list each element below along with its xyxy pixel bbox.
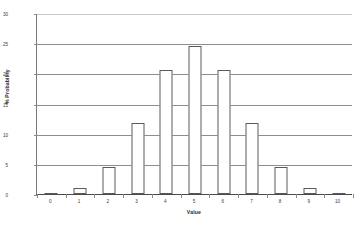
y-tick bbox=[34, 165, 37, 166]
bar-slot bbox=[37, 14, 66, 194]
y-axis-title: % Probability bbox=[4, 69, 10, 104]
y-tick-label: 0 bbox=[0, 193, 8, 198]
x-tick bbox=[66, 194, 67, 198]
x-tick-label: 8 bbox=[265, 199, 295, 204]
bar bbox=[246, 123, 259, 194]
bar-slot bbox=[324, 14, 353, 194]
x-tick-label: 6 bbox=[208, 199, 238, 204]
x-tick bbox=[324, 194, 325, 198]
x-tick-label: 10 bbox=[323, 199, 353, 204]
bar bbox=[131, 123, 144, 194]
x-tick-label: 9 bbox=[294, 199, 324, 204]
plot-area bbox=[36, 14, 352, 195]
x-tick bbox=[123, 194, 124, 198]
x-tick-label: 0 bbox=[35, 199, 65, 204]
x-tick-label: 5 bbox=[179, 199, 209, 204]
bar bbox=[275, 167, 288, 194]
bar-slot bbox=[66, 14, 95, 194]
x-axis-title: Value bbox=[36, 209, 352, 215]
bar bbox=[45, 193, 58, 194]
bar-slot bbox=[238, 14, 267, 194]
chart-figure: 012345678910 302520151050 Value % Probab… bbox=[0, 0, 364, 226]
y-tick bbox=[34, 74, 37, 75]
x-tick bbox=[209, 194, 210, 198]
bar-slot bbox=[123, 14, 152, 194]
bar bbox=[332, 193, 345, 194]
bar bbox=[217, 70, 230, 194]
bar bbox=[102, 167, 115, 194]
x-tick bbox=[238, 194, 239, 198]
y-tick-label: 5 bbox=[0, 162, 8, 167]
x-tick bbox=[37, 194, 38, 198]
x-tick-label: 1 bbox=[64, 199, 94, 204]
y-tick bbox=[34, 135, 37, 136]
bar-slot bbox=[296, 14, 325, 194]
y-tick-label: 10 bbox=[0, 132, 8, 137]
bar-slot bbox=[152, 14, 181, 194]
y-tick-label: 25 bbox=[0, 42, 8, 47]
y-tick bbox=[34, 195, 37, 196]
x-tick bbox=[296, 194, 297, 198]
bar bbox=[160, 70, 173, 194]
x-tick bbox=[181, 194, 182, 198]
bar-slot bbox=[181, 14, 210, 194]
y-tick bbox=[34, 44, 37, 45]
x-tick-label: 3 bbox=[122, 199, 152, 204]
x-tick-label: 2 bbox=[93, 199, 123, 204]
x-tick-label: 4 bbox=[150, 199, 180, 204]
bar-slot bbox=[267, 14, 296, 194]
bar-slot bbox=[94, 14, 123, 194]
y-tick-label: 30 bbox=[0, 12, 8, 17]
bar-slot bbox=[209, 14, 238, 194]
x-tick bbox=[267, 194, 268, 198]
x-tick bbox=[152, 194, 153, 198]
y-tick bbox=[34, 105, 37, 106]
x-tick bbox=[94, 194, 95, 198]
x-tick bbox=[353, 194, 354, 198]
y-tick bbox=[34, 14, 37, 15]
bar bbox=[303, 188, 316, 194]
x-tick-label: 7 bbox=[236, 199, 266, 204]
bar bbox=[188, 46, 201, 194]
bar bbox=[74, 188, 87, 194]
bar-series bbox=[37, 14, 352, 194]
